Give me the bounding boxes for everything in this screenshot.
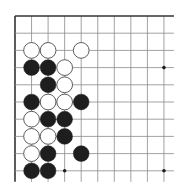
black-stone xyxy=(24,60,40,76)
white-stone xyxy=(24,111,40,127)
black-stone xyxy=(57,129,73,145)
black-stone xyxy=(57,111,73,127)
white-stone xyxy=(40,94,56,110)
white-stone xyxy=(24,146,40,162)
black-stone xyxy=(73,146,89,162)
star-point-icon xyxy=(162,169,166,173)
black-stone xyxy=(40,163,56,179)
go-board xyxy=(0,0,187,196)
white-stone xyxy=(40,43,56,59)
white-stone xyxy=(73,43,89,59)
black-stone xyxy=(73,94,89,110)
black-stone xyxy=(24,94,40,110)
star-point-icon xyxy=(162,66,166,70)
white-stone xyxy=(24,129,40,145)
black-stone xyxy=(40,111,56,127)
star-point-icon xyxy=(63,169,67,173)
white-stone xyxy=(40,129,56,145)
stones-layer xyxy=(24,43,89,179)
black-stone xyxy=(24,163,40,179)
white-stone xyxy=(57,77,73,93)
white-stone xyxy=(24,43,40,59)
black-stone xyxy=(40,146,56,162)
white-stone xyxy=(57,94,73,110)
black-stone xyxy=(40,60,56,76)
white-stone xyxy=(57,60,73,76)
black-stone xyxy=(40,77,56,93)
